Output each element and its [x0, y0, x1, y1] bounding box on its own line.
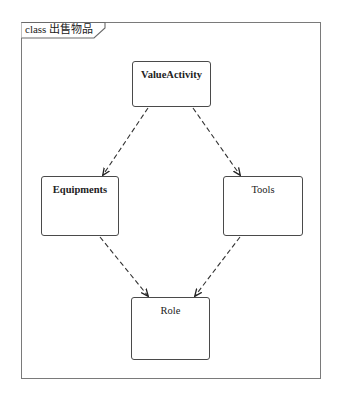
class-role[interactable]: Role [131, 297, 210, 360]
class-name: Role [132, 305, 209, 316]
dependency-tools-role [195, 237, 240, 296]
frame-title: class 出售物品 [25, 22, 93, 36]
class-valueactivity[interactable]: ValueActivity [132, 61, 211, 107]
class-name: Equipments [42, 184, 118, 195]
dependency-equipments-role [100, 237, 148, 296]
class-equipments[interactable]: Equipments [41, 176, 119, 236]
class-tools[interactable]: Tools [223, 176, 303, 236]
diagram-canvas: class 出售物品 ValueActivity Equipments Tool… [0, 0, 344, 400]
class-name: Tools [224, 184, 302, 195]
dependency-valueactivity-equipments [103, 108, 148, 175]
dependency-valueactivity-tools [193, 108, 240, 175]
class-name: ValueActivity [133, 69, 210, 80]
